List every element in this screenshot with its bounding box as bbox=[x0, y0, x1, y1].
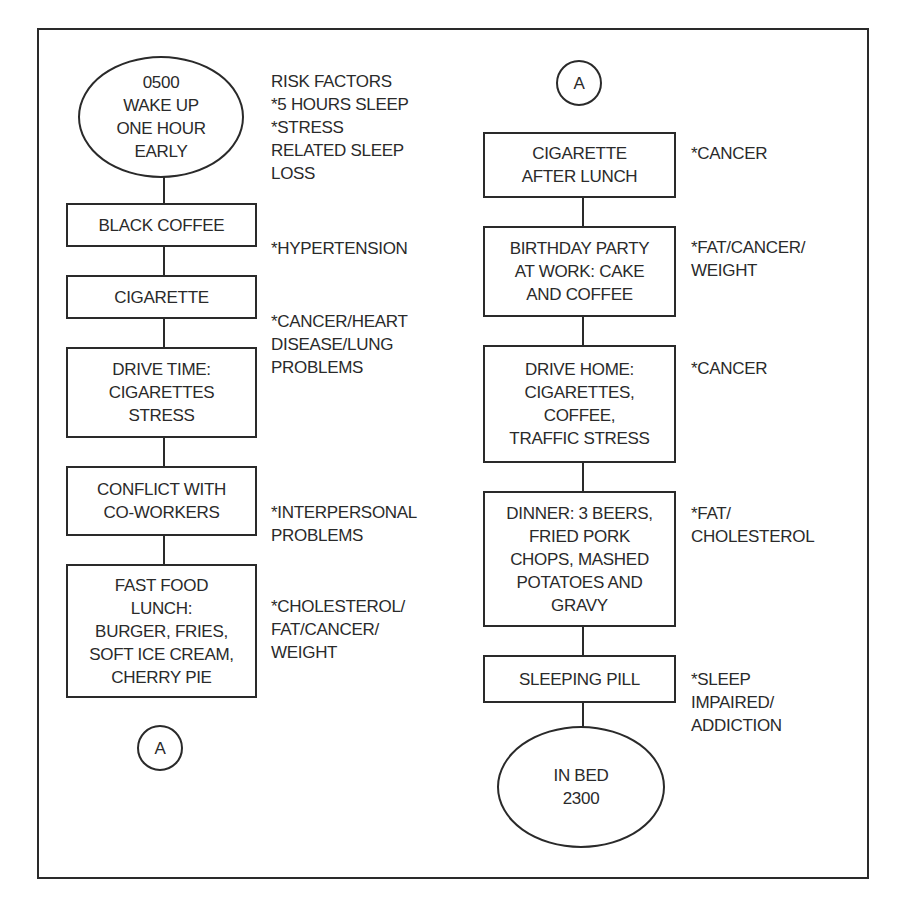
note-risk-factors: RISK FACTORS *5 HOURS SLEEP *STRESS RELA… bbox=[271, 70, 409, 185]
connector-line bbox=[163, 246, 165, 276]
start-oval-wake-up: 0500 WAKE UP ONE HOUR EARLY bbox=[78, 56, 244, 178]
step-birthday-party: BIRTHDAY PARTY AT WORK: CAKE AND COFFEE bbox=[483, 226, 676, 317]
note-cancer-heart-lung: *CANCER/HEART DISEASE/LUNG PROBLEMS bbox=[271, 310, 408, 379]
connector-line bbox=[582, 626, 584, 656]
step-drive-home: DRIVE HOME: CIGARETTES, COFFEE, TRAFFIC … bbox=[483, 345, 676, 463]
step-conflict: CONFLICT WITH CO-WORKERS bbox=[66, 466, 257, 536]
step-cigarette: CIGARETTE bbox=[66, 275, 257, 319]
note-cancer-1: *CANCER bbox=[691, 142, 767, 165]
note-fat-cancer-weight: *FAT/CANCER/ WEIGHT bbox=[691, 236, 805, 282]
step-fast-food-lunch: FAST FOOD LUNCH: BURGER, FRIES, SOFT ICE… bbox=[66, 564, 257, 698]
note-interpersonal: *INTERPERSONAL PROBLEMS bbox=[271, 501, 417, 547]
end-oval-in-bed: IN BED 2300 bbox=[497, 726, 665, 848]
connector-line bbox=[163, 176, 165, 204]
connector-a-left: A bbox=[137, 725, 183, 771]
connector-a-right: A bbox=[556, 60, 602, 106]
note-sleep-impaired-addiction: *SLEEP IMPAIRED/ ADDICTION bbox=[691, 668, 782, 737]
connector-line bbox=[582, 462, 584, 492]
step-cigarette-after-lunch: CIGARETTE AFTER LUNCH bbox=[483, 132, 676, 198]
note-fat-cholesterol: *FAT/ CHOLESTEROL bbox=[691, 502, 814, 548]
step-black-coffee: BLACK COFFEE bbox=[66, 203, 257, 247]
step-sleeping-pill: SLEEPING PILL bbox=[483, 655, 676, 703]
connector-line bbox=[582, 316, 584, 346]
connector-line bbox=[163, 437, 165, 467]
connector-line bbox=[163, 535, 165, 565]
connector-line bbox=[582, 702, 584, 727]
note-cancer-2: *CANCER bbox=[691, 357, 767, 380]
connector-line bbox=[163, 318, 165, 348]
note-cholesterol-fat-cancer-weight: *CHOLESTEROL/ FAT/CANCER/ WEIGHT bbox=[271, 595, 405, 664]
connector-line bbox=[582, 197, 584, 227]
note-hypertension: *HYPERTENSION bbox=[271, 237, 408, 260]
step-drive-time: DRIVE TIME: CIGARETTES STRESS bbox=[66, 347, 257, 438]
step-dinner: DINNER: 3 BEERS, FRIED PORK CHOPS, MASHE… bbox=[483, 491, 676, 627]
